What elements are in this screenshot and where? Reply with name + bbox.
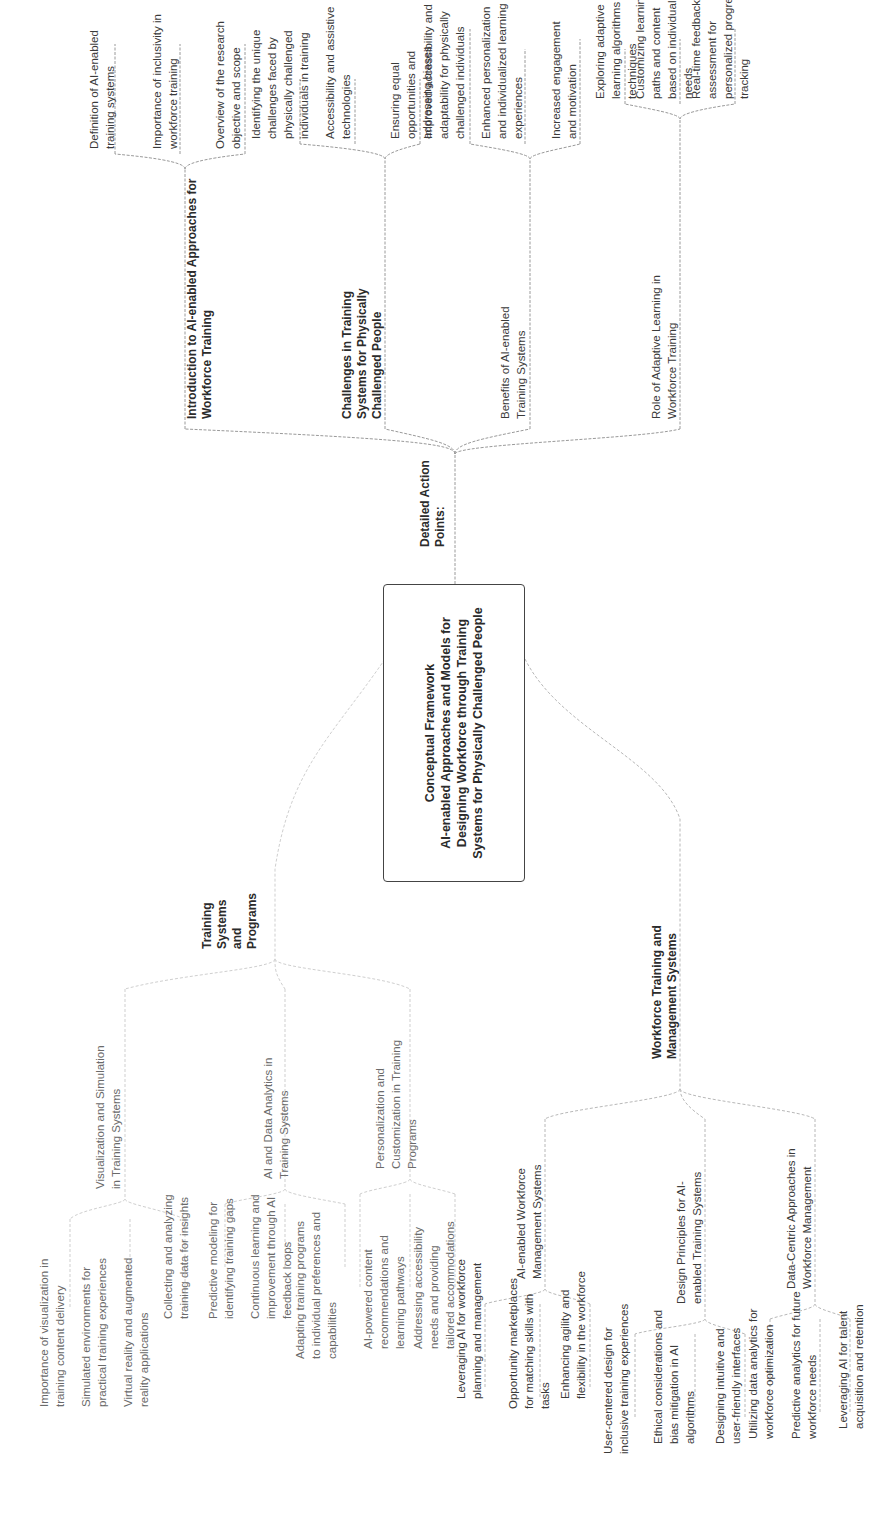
topic-challenges[interactable]: Challenges in Training Systems for Physi… — [340, 269, 385, 419]
item-definition[interactable]: Definition of AI-enabled training system… — [86, 19, 118, 149]
topic-introduction[interactable]: Introduction to AI-enabled Approaches fo… — [185, 169, 215, 419]
topic-ai-data-analytics[interactable]: AI and Data Analytics in Training System… — [260, 1029, 292, 1179]
branch-training-systems[interactable]: Training Systems and Programs — [200, 889, 260, 949]
item-talent-acquisition[interactable]: Leveraging AI for talent acquisition and… — [835, 1289, 867, 1429]
topic-personalization[interactable]: Personalization and Customization in Tra… — [372, 1019, 420, 1169]
item-unique-challenges[interactable]: Identifying the unique challenges faced … — [248, 9, 312, 139]
topic-adaptive-learning[interactable]: Role of Adaptive Learning in Workforce T… — [648, 239, 680, 419]
branch-action-points[interactable]: Detailed Action Points: — [418, 457, 448, 547]
topic-benefits[interactable]: Benefits of AI-enabled Training Systems — [497, 269, 529, 419]
item-collecting-data[interactable]: Collecting and analyzing training data f… — [160, 1169, 192, 1319]
topic-ai-workforce-management[interactable]: AI-enabled Workforce Management Systems — [513, 1129, 545, 1279]
item-adapting-programs[interactable]: Adapting training programs to individual… — [292, 1209, 340, 1359]
item-simulated-environments[interactable]: Simulated environments for practical tra… — [78, 1242, 110, 1407]
item-accessibility-tech[interactable]: Accessibility and assistive technologies — [322, 0, 354, 139]
item-research-overview[interactable]: Overview of the research objective and s… — [212, 9, 244, 149]
item-realtime-feedback[interactable]: Real-time feedback and assessment for pe… — [688, 0, 752, 99]
item-enhanced-personalization[interactable]: Enhanced personalization and individuali… — [478, 0, 526, 139]
item-continuous-learning[interactable]: Continuous learning and improvement thro… — [247, 1179, 295, 1319]
item-accessibility-accommodations[interactable]: Addressing accessibility needs and provi… — [410, 1209, 458, 1349]
topic-design-principles[interactable]: Design Principles for AI-enabled Trainin… — [673, 1154, 705, 1304]
mind-map-canvas: Conceptual Framework AI-enabled Approach… — [0, 0, 895, 1519]
item-predictive-modeling[interactable]: Predictive modeling for identifying trai… — [205, 1169, 237, 1319]
item-ethical-considerations[interactable]: Ethical considerations and bias mitigati… — [650, 1304, 698, 1444]
root-title: Conceptual Framework — [422, 593, 438, 873]
item-inclusivity[interactable]: Importance of inclusivity in workforce t… — [149, 0, 181, 149]
item-opportunity-marketplaces[interactable]: Opportunity marketplaces for matching sk… — [505, 1269, 553, 1409]
item-custom-paths[interactable]: Customizing learning paths and content b… — [632, 0, 696, 99]
item-intuitive-interfaces[interactable]: Designing intuitive and user-friendly in… — [712, 1304, 744, 1444]
item-predictive-analytics[interactable]: Predictive analytics for future workforc… — [788, 1289, 820, 1439]
item-improved-accessibility[interactable]: Improved accessibility and adaptability … — [420, 0, 468, 139]
item-agility-flexibility[interactable]: Enhancing agility and flexibility in the… — [557, 1254, 589, 1399]
root-node[interactable]: Conceptual Framework AI-enabled Approach… — [383, 584, 525, 882]
item-user-centered-design[interactable]: User-centered design for inclusive train… — [600, 1299, 632, 1454]
item-increased-engagement[interactable]: Increased engagement and motivation — [548, 0, 580, 139]
topic-visualization[interactable]: Visualization and Simulation in Training… — [92, 1039, 124, 1189]
item-workforce-planning[interactable]: Leveraging AI for workforce planning and… — [453, 1259, 485, 1399]
branch-workforce-systems[interactable]: Workforce Training and Management System… — [650, 909, 680, 1059]
topic-data-centric[interactable]: Data-Centric Approaches in Workforce Man… — [783, 1129, 815, 1289]
item-importance-visualization[interactable]: Importance of visualization in training … — [36, 1257, 68, 1407]
item-ai-recommendations[interactable]: AI-powered content recommendations and l… — [360, 1209, 408, 1349]
item-data-analytics-optimization[interactable]: Utilizing data analytics for workforce o… — [745, 1299, 777, 1439]
item-vr-ar[interactable]: Virtual reality and augmented reality ap… — [120, 1257, 152, 1407]
root-subtitle: AI-enabled Approaches and Models for Des… — [438, 593, 486, 873]
